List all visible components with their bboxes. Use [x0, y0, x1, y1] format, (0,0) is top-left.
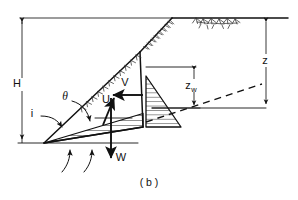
figure-canvas: H H z z w V: [0, 0, 298, 200]
label-H-text: H: [13, 77, 21, 89]
label-U: U: [102, 93, 110, 105]
tension-crack-water-pressure-triangle: [146, 76, 181, 127]
label-zw-subscript: w: [190, 85, 197, 94]
slope-face-hatching-upper: [144, 20, 174, 49]
slope-stability-figure: H H z z w V: [0, 0, 298, 200]
label-W: W: [116, 151, 127, 163]
label-i: i: [31, 107, 33, 119]
seepage-arrows: [62, 150, 92, 172]
ground-surface-hatching: [193, 18, 241, 29]
label-z: z: [262, 54, 268, 66]
label-zw: z: [185, 79, 191, 91]
leader-angle-i: [41, 116, 62, 127]
figure-caption: ( b ): [140, 176, 159, 188]
label-V: V: [121, 76, 129, 88]
label-theta: θ: [62, 90, 68, 102]
